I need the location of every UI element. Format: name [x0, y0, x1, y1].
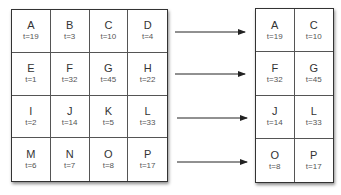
cell-label: L — [311, 105, 317, 117]
cell-label: P — [310, 149, 317, 161]
grid-cell: At=19 — [256, 9, 295, 52]
cell-value: t=32 — [267, 75, 283, 85]
grid-cell: Pt=17 — [295, 139, 334, 182]
cell-value: t=10 — [306, 32, 322, 42]
cell-value: t=45 — [306, 75, 322, 85]
grid-cell: Ft=32 — [256, 52, 295, 95]
grid-cell: Jt=14 — [256, 96, 295, 139]
cell-value: t=33 — [306, 118, 322, 128]
result-grid: At=19 Ct=10 Ft=32 Gt=45 Jt=14 Lt=33 Ot=8… — [255, 8, 334, 183]
cell-value: t=17 — [306, 162, 322, 172]
grid-cell: Ot=8 — [256, 139, 295, 182]
cell-label: F — [271, 62, 278, 74]
cell-value: t=19 — [267, 32, 283, 42]
cell-label: C — [310, 19, 318, 31]
grid-cell: Ct=10 — [295, 9, 334, 52]
cell-value: t=14 — [267, 118, 283, 128]
cell-value: t=8 — [269, 162, 280, 172]
cell-label: J — [272, 105, 278, 117]
cell-label: O — [270, 149, 279, 161]
grid-cell: Lt=33 — [295, 96, 334, 139]
cell-label: A — [271, 19, 278, 31]
grid-cell: Gt=45 — [295, 52, 334, 95]
cell-label: G — [309, 62, 318, 74]
